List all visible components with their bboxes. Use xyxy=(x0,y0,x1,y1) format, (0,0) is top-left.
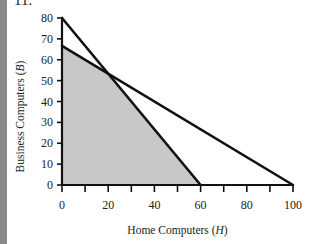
x-tick-label: 60 xyxy=(195,198,207,212)
x-tick-label: 0 xyxy=(59,198,65,212)
x-tick-label: 100 xyxy=(284,198,302,212)
y-tick-label: 30 xyxy=(41,115,53,129)
x-tick-label: 40 xyxy=(148,198,160,212)
y-tick-label: 70 xyxy=(41,32,53,46)
x-tick-label: 20 xyxy=(102,198,114,212)
x-tick-label: 80 xyxy=(241,198,253,212)
x-axis-label: Home Computers (H) xyxy=(127,224,227,237)
y-tick-label: 10 xyxy=(41,157,53,171)
y-tick-label: 50 xyxy=(41,74,53,88)
y-tick-label: 40 xyxy=(41,95,53,109)
y-tick-label: 80 xyxy=(41,11,53,25)
y-axis-label: Business Computers (B) xyxy=(14,60,27,172)
y-tick-label: 0 xyxy=(47,178,53,192)
y-tick-label: 20 xyxy=(41,136,53,150)
chart: 01020304050607080020406080100Home Comput… xyxy=(0,0,315,244)
y-tick-label: 60 xyxy=(41,53,53,67)
